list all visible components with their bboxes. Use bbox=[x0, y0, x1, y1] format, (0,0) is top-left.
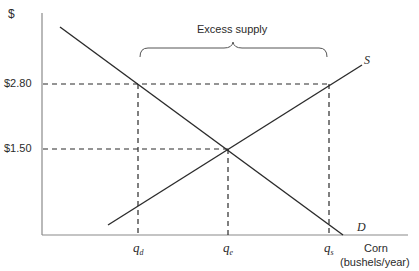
demand-curve bbox=[60, 27, 343, 235]
demand-curve-label: D bbox=[357, 221, 366, 233]
supply-curve bbox=[108, 65, 362, 225]
x-axis-unit-label: (bushels/year) bbox=[340, 257, 410, 268]
qs-label: qs bbox=[324, 241, 334, 257]
x-axis-label: Corn bbox=[364, 243, 388, 254]
y-axis-label: $ bbox=[8, 8, 15, 20]
qe-label: qe bbox=[223, 241, 233, 257]
supply-curve-label: S bbox=[364, 54, 370, 66]
qd-label: qd bbox=[133, 241, 144, 257]
price-label-equilibrium: $1.50 bbox=[4, 143, 32, 154]
excess-supply-brace bbox=[140, 42, 327, 57]
price-label-high: $2.80 bbox=[4, 78, 32, 89]
excess-supply-label: Excess supply bbox=[197, 24, 267, 35]
